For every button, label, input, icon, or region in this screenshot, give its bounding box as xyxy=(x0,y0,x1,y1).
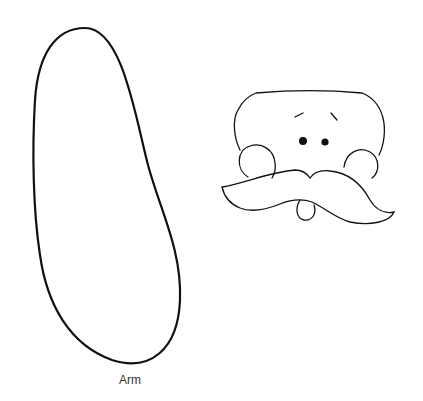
left-cheek xyxy=(239,145,275,178)
right-cheek xyxy=(344,150,378,178)
right-eye xyxy=(321,138,328,145)
tongue xyxy=(297,200,315,220)
right-eyebrow xyxy=(331,113,337,120)
arm-label: Arm xyxy=(108,373,152,387)
left-eyebrow xyxy=(295,113,303,117)
arm-outline xyxy=(33,28,180,363)
mustache xyxy=(222,170,394,224)
craft-template xyxy=(0,0,423,401)
left-eye xyxy=(299,137,307,145)
face-piece xyxy=(222,91,394,224)
